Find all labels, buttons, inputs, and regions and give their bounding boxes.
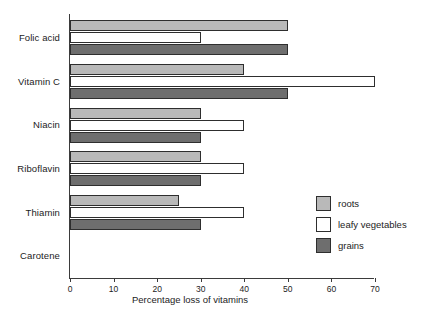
category-label: Niacin [33,119,60,130]
x-axis-tick-label: 10 [109,284,118,294]
x-axis-tick-label: 30 [196,284,205,294]
x-axis-tick [375,278,376,282]
bar [70,108,201,119]
bar [70,120,244,131]
bar [70,219,201,230]
legend-item: leafy vegetables [316,214,424,235]
x-axis-tick [331,278,332,282]
x-axis-tick [157,278,158,282]
category-label: Riboflavin [17,163,60,174]
x-axis-tick [288,278,289,282]
legend-item: grains [316,235,424,256]
category-axis-labels: Folic acidVitamin CNiacinRiboflavinThiam… [0,16,66,278]
legend-label: leafy vegetables [338,219,407,230]
legend-item: roots [316,193,424,214]
category-label: Carotene [20,250,60,261]
bar [70,44,288,55]
x-axis-tick [201,278,202,282]
bar-chart: Folic acidVitamin CNiacinRiboflavinThiam… [0,0,427,323]
bar [70,64,244,75]
bar [70,32,201,43]
x-axis-tick-label: 0 [68,284,73,294]
legend-swatch [316,217,331,232]
bar [70,207,244,218]
legend-label: roots [338,198,359,209]
x-axis-tick-label: 60 [327,284,336,294]
x-axis-tick-label: 50 [283,284,292,294]
bar [70,20,288,31]
legend: rootsleafy vegetablesgrains [316,193,424,256]
x-axis-tick [244,278,245,282]
category-label: Folic acid [19,32,60,43]
bar [70,175,201,186]
x-axis-tick [70,278,71,282]
x-axis-tick-label: 70 [370,284,379,294]
category-label: Vitamin C [18,76,60,87]
legend-swatch [316,238,331,253]
x-axis-tick-label: 20 [152,284,161,294]
bar [70,132,201,143]
legend-label: grains [338,240,364,251]
bar [70,163,244,174]
category-label: Thiamin [26,207,61,218]
x-axis-line [69,278,374,279]
bar [70,195,179,206]
x-axis-tick [114,278,115,282]
bar [70,76,375,87]
x-axis-tick-label: 40 [240,284,249,294]
x-axis-title: Percentage loss of vitamins [70,294,310,305]
bar [70,151,201,162]
legend-swatch [316,196,331,211]
bar [70,88,288,99]
